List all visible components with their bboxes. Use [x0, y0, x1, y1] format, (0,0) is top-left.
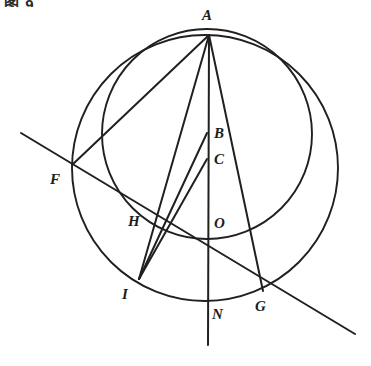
geometry-figure: 图 9 A B C O F H I N G: [0, 0, 371, 366]
segment-i-b: [139, 133, 207, 279]
line-f-g-transversal: [21, 133, 355, 334]
point-label-O: O: [214, 216, 225, 231]
point-label-I: I: [122, 287, 128, 302]
point-label-F: F: [50, 172, 60, 187]
point-label-A: A: [202, 8, 212, 23]
segment-i-c: [139, 159, 207, 279]
segment-a-n-vertical: [208, 35, 209, 345]
outer-circle: [72, 35, 338, 301]
point-label-C: C: [214, 152, 224, 167]
point-label-H: H: [128, 214, 140, 229]
point-label-B: B: [214, 126, 224, 141]
point-label-N: N: [212, 307, 223, 322]
segment-a-f: [72, 35, 209, 165]
point-label-G: G: [255, 299, 266, 314]
segment-a-i: [139, 35, 209, 279]
